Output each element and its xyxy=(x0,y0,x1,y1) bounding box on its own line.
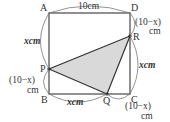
triangle-pqr xyxy=(49,36,130,94)
label-q: Q xyxy=(103,95,111,106)
geometry-figure: A D B C P Q R 10cm xcm (10−x) cm xcm (10… xyxy=(0,0,170,122)
measure-dr-line2: cm xyxy=(149,26,161,36)
label-a: A xyxy=(40,2,48,13)
measure-ap: xcm xyxy=(23,36,40,46)
measure-bq: xcm xyxy=(66,97,83,107)
measure-rc: xcm xyxy=(138,60,155,70)
label-p: P xyxy=(40,63,46,74)
brace-qc xyxy=(107,94,130,99)
label-r: R xyxy=(133,31,140,42)
label-d: D xyxy=(131,2,138,13)
brace-rc xyxy=(130,36,138,94)
measure-qc-line2: cm xyxy=(141,111,153,121)
measure-ad: 10cm xyxy=(78,1,100,11)
measure-pb-line2: cm xyxy=(27,85,39,95)
label-b: B xyxy=(41,94,48,105)
brace-ap xyxy=(41,13,50,69)
